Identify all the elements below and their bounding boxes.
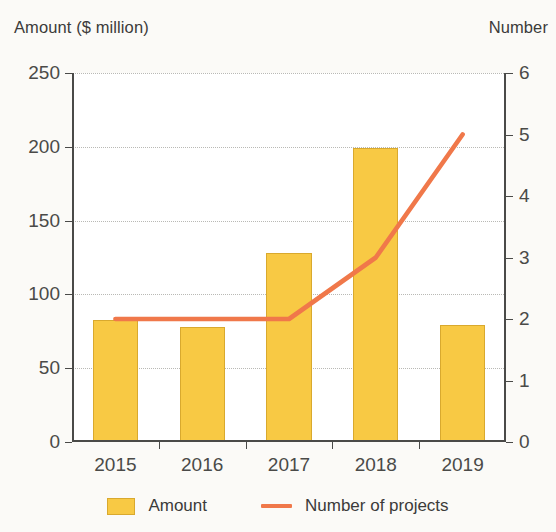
left-axis-tick [65, 294, 72, 295]
left-axis-tick-label: 0 [49, 431, 60, 453]
left-axis-tick-label: 250 [28, 62, 60, 84]
x-axis-tick-label: 2015 [94, 454, 136, 476]
left-axis-line [72, 73, 74, 442]
legend-label: Amount [148, 496, 207, 516]
right-axis-tick-label: 2 [519, 308, 530, 330]
legend-label: Number of projects [305, 496, 449, 516]
bottom-axis-line [72, 440, 506, 442]
x-axis-tick [419, 442, 420, 449]
left-axis-title: Amount ($ million) [14, 18, 149, 37]
right-axis-tick-label: 0 [519, 431, 530, 453]
right-axis-tick [506, 319, 513, 320]
right-axis-tick-label: 4 [519, 185, 530, 207]
left-axis-tick-label: 50 [39, 357, 60, 379]
x-axis-tick [159, 442, 160, 449]
right-axis-tick [506, 196, 513, 197]
left-axis-tick [65, 442, 72, 443]
left-axis-tick [65, 368, 72, 369]
line-swatch-icon [261, 504, 292, 509]
right-axis-tick [506, 442, 513, 443]
right-axis-tick [506, 258, 513, 259]
x-axis-tick-label: 2016 [181, 454, 223, 476]
plot-area: 050100150200250 0123456 2015201620172018… [72, 73, 506, 442]
bar-swatch-icon [107, 498, 135, 515]
chart-container: Amount ($ million) Number 05010015020025… [0, 0, 556, 532]
left-axis-tick-label: 150 [28, 210, 60, 232]
right-axis-tick-label: 5 [519, 124, 530, 146]
left-axis-tick [65, 221, 72, 222]
left-axis-tick [65, 147, 72, 148]
right-axis-tick [506, 135, 513, 136]
left-axis-tick-label: 200 [28, 136, 60, 158]
line-series-number-of-projects [72, 73, 506, 442]
right-axis-tick [506, 73, 513, 74]
left-axis-tick [65, 73, 72, 74]
x-axis-tick [246, 442, 247, 449]
right-axis-title: Number [489, 18, 548, 37]
chart-legend: AmountNumber of projects [0, 496, 556, 516]
x-axis-tick-label: 2019 [441, 454, 483, 476]
x-axis-tick-label: 2018 [355, 454, 397, 476]
right-axis-tick [506, 381, 513, 382]
right-axis-tick-label: 3 [519, 247, 530, 269]
x-axis-tick [332, 442, 333, 449]
legend-item[interactable]: Number of projects [261, 496, 449, 516]
x-axis-tick-label: 2017 [268, 454, 310, 476]
right-axis-tick-label: 1 [519, 370, 530, 392]
legend-item[interactable]: Amount [107, 496, 207, 516]
left-axis-tick-label: 100 [28, 283, 60, 305]
right-axis-tick-label: 6 [519, 62, 530, 84]
